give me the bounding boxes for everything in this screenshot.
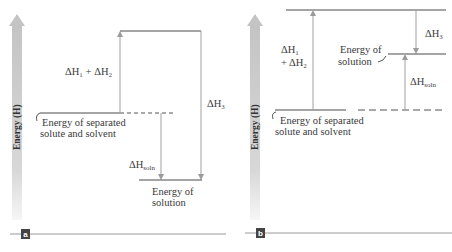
label-dh1: ΔH₁	[281, 44, 299, 55]
panel-b-badge-text: b	[258, 229, 263, 238]
label-solution-2: solution	[338, 56, 373, 67]
enthalpy-diagram: Energy (H) ΔH₁ + ΔH₂ ΔH₃ ΔHsoln Energy o…	[0, 0, 452, 252]
energy-axis-label: Energy (H)	[12, 104, 23, 150]
label-separated-2: solute and solvent	[275, 126, 351, 137]
label-solution-2: solution	[152, 197, 187, 208]
label-separated-1: Energy of separated	[42, 117, 127, 128]
label-solution-1: Energy of	[152, 186, 194, 197]
panel-b: Energy (H) ΔH₁ + ΔH₂ ΔH₃ ΔHsoln Energy o…	[245, 10, 452, 238]
label-dhsoln: ΔHsoln	[410, 76, 437, 89]
pointer-hook-icon	[272, 112, 276, 119]
label-dh3: ΔH₃	[425, 28, 443, 39]
energy-axis-label: Energy (H)	[250, 104, 261, 150]
label-separated-2: solute and solvent	[40, 128, 116, 139]
label-solution-1: Energy of	[340, 44, 382, 55]
label-dh3: ΔH₃	[207, 98, 225, 109]
label-dhsoln: ΔHsoln	[129, 159, 156, 172]
panel-a-badge-text: a	[23, 230, 28, 239]
solution-pointer-icon	[378, 56, 386, 62]
label-dh1-dh2: ΔH₁ + ΔH₂	[65, 66, 113, 77]
label-dh2: + ΔH₂	[281, 57, 307, 68]
pointer-hook-icon	[36, 113, 40, 121]
label-separated-1: Energy of separated	[280, 115, 365, 126]
panel-a: Energy (H) ΔH₁ + ΔH₂ ΔH₃ ΔHsoln Energy o…	[9, 14, 226, 239]
